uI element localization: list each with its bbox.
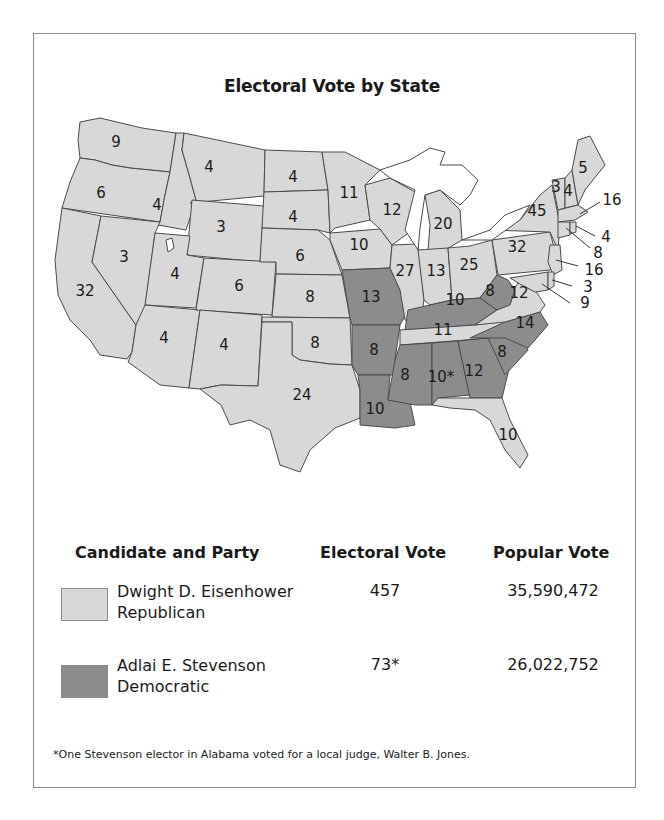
state-nj xyxy=(548,245,562,275)
footnote: *One Stevenson elector in Alabama voted … xyxy=(53,748,470,761)
label-mt: 4 xyxy=(204,158,214,176)
label-co: 6 xyxy=(234,277,244,295)
label-ky: 10 xyxy=(445,291,464,309)
popular-vote-stevenson: 26,022,752 xyxy=(490,655,616,674)
electoral-vote-stevenson: 73* xyxy=(350,655,420,674)
candidate-name: Dwight D. Eisenhower xyxy=(117,581,293,602)
header-candidate: Candidate and Party xyxy=(75,543,259,562)
label-nv: 3 xyxy=(119,248,129,266)
callout-ri xyxy=(576,226,595,236)
label-ok: 8 xyxy=(310,334,320,352)
label-id: 4 xyxy=(152,196,162,214)
label-me: 5 xyxy=(578,159,588,177)
state-mt xyxy=(182,133,265,203)
label-ca: 32 xyxy=(75,282,94,300)
label-vt: 3 xyxy=(551,178,561,196)
label-ar: 8 xyxy=(369,341,379,359)
label-va: 12 xyxy=(509,284,528,302)
label-mo: 13 xyxy=(361,288,380,306)
label-il: 27 xyxy=(395,262,414,280)
label-ne: 6 xyxy=(295,247,305,265)
label-ct: 8 xyxy=(593,244,603,262)
label-az: 4 xyxy=(159,329,169,347)
label-nj: 16 xyxy=(584,261,603,279)
label-wi: 12 xyxy=(382,201,401,219)
label-nh: 4 xyxy=(563,182,573,200)
callout-md xyxy=(542,284,570,303)
candidate-name: Adlai E. Stevenson xyxy=(117,655,266,676)
label-al: 10* xyxy=(428,368,455,386)
state-me xyxy=(572,136,605,205)
popular-vote-eisenhower: 35,590,472 xyxy=(490,581,616,600)
label-pa: 32 xyxy=(507,238,526,256)
label-sc: 8 xyxy=(497,343,507,361)
swatch-democratic xyxy=(61,665,108,698)
label-in: 13 xyxy=(426,262,445,280)
label-md: 9 xyxy=(580,294,590,312)
label-ia: 10 xyxy=(349,236,368,254)
state-de xyxy=(548,272,554,290)
label-ks: 8 xyxy=(305,288,315,306)
label-nc: 14 xyxy=(515,314,534,332)
label-la: 10 xyxy=(365,400,384,418)
label-ny: 45 xyxy=(527,202,546,220)
label-ma: 16 xyxy=(602,191,621,209)
label-tx: 24 xyxy=(292,386,311,404)
label-or: 6 xyxy=(96,184,106,202)
label-mn: 11 xyxy=(339,184,358,202)
label-nd: 4 xyxy=(288,168,298,186)
callout-de xyxy=(552,280,572,286)
label-nm: 4 xyxy=(219,336,229,354)
label-sd: 4 xyxy=(288,208,298,226)
electoral-vote-eisenhower: 457 xyxy=(350,581,420,600)
label-fl: 10 xyxy=(498,426,517,444)
label-wv: 8 xyxy=(485,282,495,300)
label-ga: 12 xyxy=(464,362,483,380)
candidate-eisenhower: Dwight D. Eisenhower Republican xyxy=(117,581,293,623)
candidate-stevenson: Adlai E. Stevenson Democratic xyxy=(117,655,266,697)
label-oh: 25 xyxy=(459,256,478,274)
swatch-republican xyxy=(61,588,108,621)
label-mi: 20 xyxy=(433,215,452,233)
label-ut: 4 xyxy=(170,265,180,283)
header-popular: Popular Vote xyxy=(493,543,609,562)
candidate-party: Democratic xyxy=(117,676,266,697)
label-wa: 9 xyxy=(111,133,121,151)
label-ms: 8 xyxy=(400,366,410,384)
label-tn: 11 xyxy=(433,321,452,339)
label-wy: 3 xyxy=(216,218,226,236)
header-electoral: Electoral Vote xyxy=(320,543,446,562)
candidate-party: Republican xyxy=(117,602,293,623)
